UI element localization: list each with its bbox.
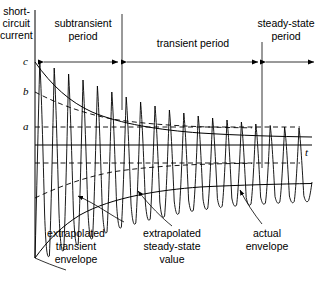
y-tick-label-a: a xyxy=(23,120,29,132)
period-label-transient: transient period xyxy=(128,38,258,50)
leader-extrapolated-steady-state-value xyxy=(138,191,172,226)
extrapolated-transient-envelope-lower xyxy=(35,163,252,198)
y-tick-label-c: c xyxy=(23,55,28,67)
figure-root: short- circuit current subtransient peri… xyxy=(0,0,320,286)
annotation-extrapolated-transient-envelope-line-1: extrapolated xyxy=(24,228,128,240)
y-axis-caption-line-1: short- xyxy=(0,6,30,18)
y-tick-label-b: b xyxy=(23,85,29,97)
x-axis-symbol-t: t xyxy=(305,146,308,158)
leader-actual-envelope xyxy=(240,190,262,224)
period-label-subtransient-line-2: period xyxy=(42,31,124,43)
annotation-extrapolated-transient-envelope-line-3: envelope xyxy=(24,254,128,266)
period-label-steady-state-line-2: period xyxy=(252,31,320,43)
annotation-actual-envelope-line-2: envelope xyxy=(228,241,306,253)
annotation-extrapolated-steady-state-value-line-2: steady-state xyxy=(122,241,222,253)
annotation-actual-envelope-line-1: actual xyxy=(228,228,306,240)
annotation-extrapolated-transient-envelope-line-2: transient xyxy=(24,241,128,253)
annotation-extrapolated-steady-state-value-line-3: value xyxy=(122,254,222,266)
y-axis-caption-line-3: current xyxy=(0,30,30,42)
period-label-subtransient-line-1: subtransient xyxy=(42,18,124,30)
annotation-extrapolated-steady-state-value-line-1: extrapolated xyxy=(122,228,222,240)
period-label-steady-state-line-1: steady-state xyxy=(252,18,320,30)
y-axis-caption-line-2: circuit xyxy=(0,18,30,30)
